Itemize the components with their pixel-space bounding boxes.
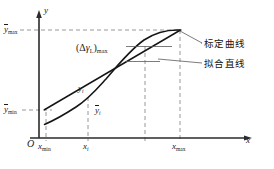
annotation-leaders (126, 31, 202, 63)
x-min-subscript: min (42, 146, 51, 152)
delta-gamma-max-annotation: (ΔγL)max (76, 43, 108, 53)
y-max-subscript: max (8, 29, 18, 35)
x-min-tick-label: xmin (38, 142, 51, 151)
y-min-subscript: min (8, 109, 17, 115)
y-min-tick-label: ymin (4, 105, 17, 114)
fitted-straight-line (44, 30, 181, 110)
legend-calibration-curve: 标定曲线 (204, 39, 245, 49)
x-max-tick-label: xmax (172, 142, 186, 151)
y-max-tick-label: ymax (4, 25, 18, 34)
delta-outer-subscript: max (97, 47, 108, 54)
legend-fitted-line: 拟合直线 (204, 59, 245, 69)
line-point-label: yi (95, 106, 101, 115)
x-i-tick-label: xi (83, 142, 89, 151)
curve-point-label: yi (78, 84, 84, 93)
x-max-subscript: max (176, 146, 186, 152)
origin-label: O (27, 139, 34, 149)
line-point-subscript: i (99, 110, 101, 116)
x-i-subscript: i (87, 146, 89, 152)
calibration-curve (45, 30, 181, 125)
y-axis-arrowhead (36, 10, 42, 18)
gamma-subscript: L (90, 47, 94, 54)
linearity-error-figure: y x O ymax ymin xmin xi xmax (ΔγL)max yi… (0, 0, 274, 169)
y-axis-label: y (44, 6, 48, 15)
curve-point-subscript: i (82, 88, 84, 94)
legend-curve-leader-line (180, 31, 202, 43)
x-axis-label: x (246, 136, 250, 145)
